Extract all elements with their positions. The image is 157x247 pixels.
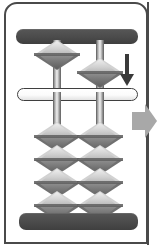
upper-bead-right[interactable] [77, 58, 123, 88]
bead-waist [34, 158, 80, 161]
abacus-diagram [0, 0, 157, 247]
bead-waist [77, 204, 123, 207]
bottom-rail [19, 213, 138, 230]
upper-bead-left[interactable] [34, 40, 80, 70]
bead-waist [77, 181, 123, 184]
bead-waist [34, 135, 80, 138]
bead-waist [34, 204, 80, 207]
bead-cone-bottom [34, 55, 80, 70]
down-arrow-icon [120, 54, 134, 86]
arrow-body [132, 112, 146, 130]
arrow-head [145, 104, 157, 138]
right-arrow-icon [132, 104, 157, 138]
bead-waist [77, 158, 123, 161]
bead-waist [77, 135, 123, 138]
bead-waist [34, 181, 80, 184]
bead-waist [77, 71, 123, 74]
bead-waist [34, 53, 80, 56]
arrow-shaft [125, 54, 129, 75]
reckoning-bar [17, 88, 138, 101]
bead-cone-bottom [77, 73, 123, 88]
arrow-head [120, 74, 134, 86]
